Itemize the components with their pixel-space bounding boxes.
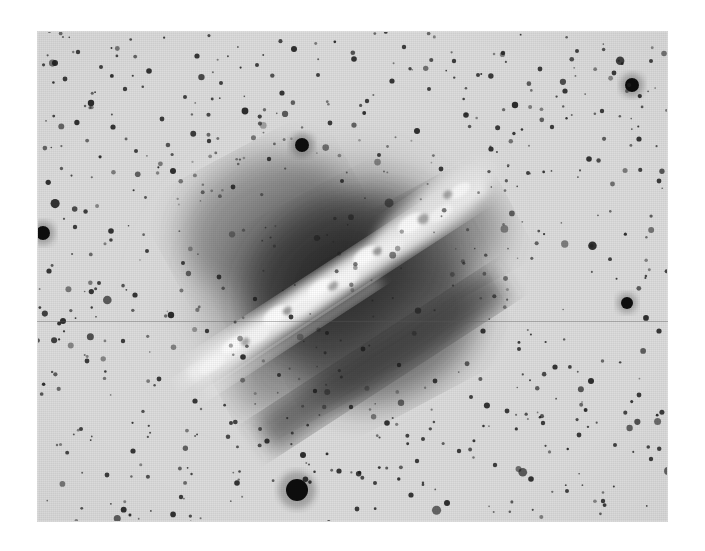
star: [659, 169, 664, 174]
star: [138, 518, 140, 520]
star: [505, 409, 510, 414]
star: [123, 87, 127, 91]
star: [414, 128, 420, 134]
star: [535, 241, 539, 245]
star: [282, 111, 288, 117]
star: [260, 122, 267, 129]
star: [503, 276, 508, 281]
star: [389, 78, 394, 83]
star: [542, 171, 545, 174]
star: [277, 373, 281, 377]
star: [645, 275, 647, 277]
star: [303, 476, 309, 482]
star: [569, 57, 574, 62]
star: [656, 414, 659, 417]
star: [229, 231, 235, 237]
star: [313, 389, 317, 393]
star: [194, 435, 196, 437]
star: [38, 306, 41, 309]
star: [340, 375, 343, 378]
star: [146, 68, 152, 74]
star: [349, 283, 353, 287]
star: [232, 353, 235, 356]
star: [527, 81, 532, 86]
star: [465, 361, 470, 366]
star: [91, 306, 93, 308]
star: [129, 38, 132, 41]
star: [109, 238, 113, 242]
star: [644, 277, 646, 279]
star: [509, 139, 513, 143]
star: [609, 210, 612, 213]
star: [282, 290, 284, 292]
star: [121, 507, 127, 513]
star: [434, 309, 436, 311]
star: [649, 214, 652, 217]
star: [221, 189, 223, 191]
star: [240, 354, 246, 360]
star: [636, 286, 641, 291]
star: [462, 262, 465, 265]
star: [132, 75, 134, 77]
star: [475, 117, 478, 120]
star: [59, 443, 62, 446]
star: [291, 46, 297, 52]
star: [254, 403, 256, 405]
star: [262, 270, 264, 272]
star: [290, 443, 292, 445]
star: [527, 329, 529, 331]
star: [308, 480, 312, 484]
star: [540, 107, 544, 111]
star: [432, 154, 435, 157]
star: [530, 333, 532, 335]
star: [565, 484, 567, 486]
star: [318, 414, 320, 416]
star: [480, 73, 482, 75]
star: [272, 479, 275, 482]
star: [241, 496, 243, 498]
star: [89, 253, 93, 257]
star: [133, 55, 137, 59]
star: [613, 443, 617, 447]
star: [234, 320, 237, 323]
star: [238, 470, 241, 473]
star: [144, 196, 147, 199]
star: [561, 222, 563, 224]
star: [476, 73, 480, 77]
star: [262, 54, 264, 56]
star: [59, 32, 63, 36]
star: [562, 105, 564, 107]
star: [540, 414, 544, 418]
star: [79, 427, 83, 431]
star: [212, 71, 214, 73]
star: [194, 102, 196, 104]
star: [205, 329, 209, 333]
star: [263, 108, 266, 111]
star: [91, 436, 93, 438]
star: [544, 445, 546, 447]
star: [50, 147, 52, 149]
star: [588, 378, 594, 384]
star: [386, 145, 389, 148]
star: [395, 423, 398, 426]
star: [582, 484, 584, 486]
star: [111, 114, 113, 116]
star: [659, 410, 664, 415]
star: [495, 125, 500, 130]
star: [637, 125, 639, 127]
star: [95, 204, 99, 208]
star: [239, 158, 241, 160]
star: [577, 433, 582, 438]
star: [139, 259, 141, 261]
star: [539, 515, 543, 519]
star: [114, 515, 121, 522]
star: [610, 182, 615, 187]
star: [208, 155, 212, 159]
star: [258, 114, 262, 118]
star: [322, 405, 326, 409]
star: [135, 171, 141, 177]
star: [202, 183, 204, 185]
star: [229, 344, 233, 348]
star: [198, 306, 201, 309]
star: [308, 464, 310, 466]
